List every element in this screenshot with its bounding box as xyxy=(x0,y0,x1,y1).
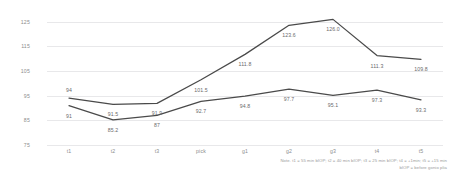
x-axis-tick-label: g1 xyxy=(242,148,248,154)
x-axis-tick-label: t2 xyxy=(111,148,116,154)
y-axis-tick-label: 75 xyxy=(0,142,30,148)
footnote-line-1: Note. t1 = 55 min bIOP; t2 = 40 min bIOP… xyxy=(280,158,447,163)
x-axis-tick-label: t5 xyxy=(419,148,424,154)
data-label: 92.7 xyxy=(196,108,207,114)
data-label: 95.1 xyxy=(328,102,339,108)
x-axis-tick-label: g2 xyxy=(286,148,292,154)
y-axis-tick-label: 105 xyxy=(0,68,30,74)
data-label: 87 xyxy=(154,122,160,128)
x-axis-tick-label: t1 xyxy=(67,148,72,154)
line-chart: 125115105958575 9491.591.9101.5111.8123.… xyxy=(0,0,453,182)
data-label: 111.3 xyxy=(371,63,384,69)
data-label: 97.3 xyxy=(372,97,383,103)
data-label: 126.0 xyxy=(326,26,340,32)
data-label: 111.8 xyxy=(239,61,252,67)
data-label: 91 xyxy=(66,113,72,119)
data-label: 85.2 xyxy=(108,127,119,133)
y-axis-tick-label: 115 xyxy=(0,43,30,49)
data-label: 94.8 xyxy=(240,103,251,109)
data-label: 101.5 xyxy=(194,87,208,93)
x-axis-tick-label: pick xyxy=(196,148,206,154)
y-axis-tick-label: 95 xyxy=(0,93,30,99)
data-label: 91.9 xyxy=(152,110,163,116)
data-label: 93.3 xyxy=(416,107,427,113)
y-axis-tick-label: 85 xyxy=(0,117,30,123)
data-label: 91.5 xyxy=(108,111,119,117)
data-label: 94 xyxy=(66,87,72,93)
footnote-line-2: bIOP = before gonio plia xyxy=(399,165,447,170)
data-label: 123.6 xyxy=(282,32,296,38)
x-axis-tick-label: t4 xyxy=(375,148,380,154)
data-label: 97.7 xyxy=(284,96,295,102)
y-axis-tick-label: 125 xyxy=(0,19,30,25)
plot-area: 125115105958575 9491.591.9101.5111.8123.… xyxy=(47,12,443,145)
gridline xyxy=(47,145,443,146)
x-axis-tick-label: g3 xyxy=(330,148,336,154)
series-lines xyxy=(47,12,443,145)
x-axis-tick-label: t3 xyxy=(155,148,160,154)
data-label: 109.8 xyxy=(414,66,428,72)
